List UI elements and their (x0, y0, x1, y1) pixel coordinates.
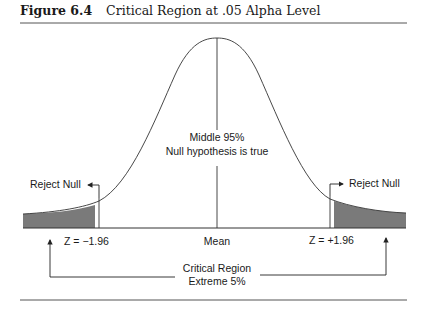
mean-label: Mean (204, 235, 230, 247)
reject-left-arrow (88, 185, 99, 198)
critical-region-label-2: Extreme 5% (188, 275, 245, 287)
z-left-label: Z = −1.96 (64, 235, 109, 247)
normal-distribution-diagram: Middle 95% Null hypothesis is true Rejec… (0, 0, 428, 310)
middle-label-2: Null hypothesis is true (166, 145, 269, 157)
critical-region-label-1: Critical Region (183, 262, 251, 274)
reject-null-right-label: Reject Null (349, 177, 400, 189)
middle-label-1: Middle 95% (190, 131, 245, 143)
reject-null-left-label: Reject Null (30, 178, 81, 190)
right-tail-shade (334, 201, 406, 228)
z-right-label: Z = +1.96 (309, 234, 354, 246)
left-tail-shade (23, 205, 95, 228)
reject-right-arrow (330, 184, 343, 196)
